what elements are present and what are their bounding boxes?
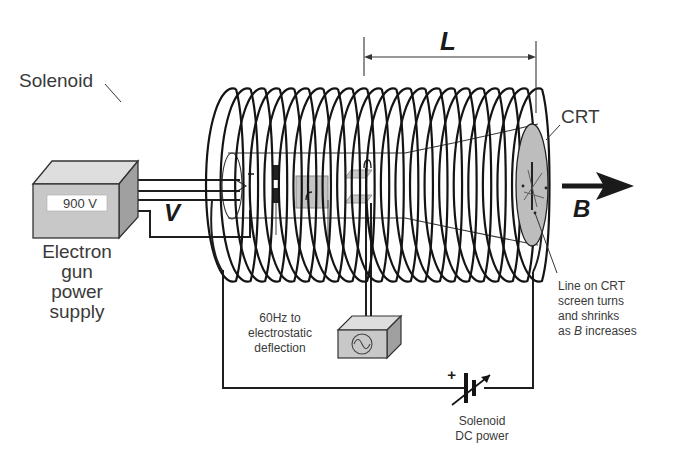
oscillator-label-line3: deflection — [254, 341, 305, 355]
crt-screen — [516, 124, 548, 246]
coil-turn — [206, 88, 244, 281]
length-label: L — [440, 26, 456, 56]
polarity-plus-label: + — [447, 366, 456, 383]
coil-turn — [221, 88, 259, 281]
screen-note-line3: and shrinks — [558, 309, 619, 323]
oscillator-label-line1: 60Hz to — [259, 311, 301, 325]
screen-note-prefix: as — [558, 324, 574, 338]
solenoid-crt-diagram: + Solenoid DC power — [0, 0, 678, 465]
field-label: B — [573, 195, 590, 222]
ac-oscillator-box — [338, 316, 401, 358]
gun-supply-wires — [134, 180, 250, 237]
dc-wire-right — [484, 272, 533, 388]
voltage-symbol-label: V — [164, 199, 182, 226]
power-supply-label-line2: gun — [61, 261, 93, 282]
oscillator-label-line2: electrostatic — [248, 326, 312, 340]
solenoid-leader-line — [105, 84, 121, 102]
screen-note-suffix: increases — [582, 324, 637, 338]
dc-power-label-line1: Solenoid — [459, 414, 506, 428]
screen-note-line1: Line on CRT — [558, 279, 626, 293]
power-supply-label-line4: supply — [50, 301, 105, 322]
voltage-display-value: 900 V — [63, 196, 97, 211]
dc-power-label-line2: DC power — [455, 429, 508, 443]
screen-note-line2: screen turns — [558, 294, 624, 308]
power-supply-label-line3: power — [51, 281, 103, 302]
solenoid-label: Solenoid — [19, 70, 93, 91]
screen-note-symbol: B — [574, 324, 582, 338]
crt-label: CRT — [561, 106, 600, 127]
screen-note-line4: as B increases — [558, 324, 637, 338]
solenoid-coil — [206, 88, 550, 281]
power-supply-label-line1: Electron — [42, 241, 112, 262]
diagram-canvas: + Solenoid DC power — [0, 0, 678, 465]
